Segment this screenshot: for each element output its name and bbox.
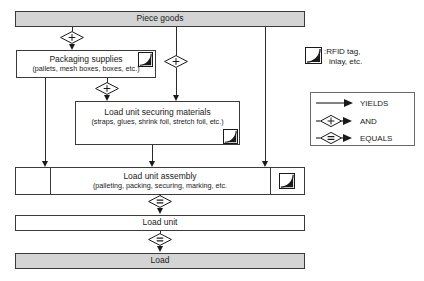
node-securing-materials: Load unit securing materials (straps, gl… (75, 101, 240, 145)
legend-row-yields: YIELDS (315, 96, 388, 110)
connector-line (176, 27, 177, 56)
node-securing-materials-detail: (straps, glues, shrink foil, stretch foi… (91, 118, 223, 126)
connector-line (45, 78, 46, 162)
legend-rfid-key: :RFID tag, inlay, etc. (305, 47, 362, 67)
node-load-label: Load (151, 256, 170, 266)
rfid-tag-icon (138, 52, 153, 67)
arrowhead-icon (104, 95, 110, 101)
arrowhead-icon (42, 161, 48, 167)
connector-line (152, 145, 153, 162)
legend-row-equals: EQUALS (315, 131, 392, 145)
rfid-tag-icon (305, 47, 322, 64)
assembly-divider-left (50, 167, 51, 195)
legend-rfid-line1: :RFID tag, (324, 47, 362, 57)
equals-connector-diamond (148, 195, 172, 208)
equals-connector-diamond (148, 233, 172, 246)
yields-arrow-icon (315, 96, 355, 110)
node-load-unit-assembly: Load unit assembly (palleting, packing, … (15, 167, 305, 195)
legend-row-and: AND (315, 114, 377, 128)
arrowhead-icon (69, 44, 75, 50)
node-packaging-supplies-detail: (pallets, mesh boxes, boxes, etc.) (32, 65, 139, 73)
equals-diamond-arrow-icon (315, 131, 355, 145)
rfid-tag-icon (279, 173, 295, 189)
arrowhead-icon (149, 161, 155, 167)
arrowhead-icon (173, 95, 179, 101)
node-load-unit-label: Load unit (143, 218, 178, 228)
node-piece-goods: Piece goods (15, 11, 305, 27)
node-piece-goods-label: Piece goods (137, 14, 184, 24)
and-diamond-arrow-icon (315, 114, 355, 128)
diagram-canvas: Piece goods Packaging supplies (pallets,… (0, 0, 424, 281)
arrowhead-icon (262, 161, 268, 167)
node-load-unit-assembly-detail: (palleting, packing, securing, marking, … (93, 182, 227, 190)
rfid-tag-icon (223, 129, 238, 144)
and-connector-diamond (164, 55, 188, 68)
legend-label-and: AND (360, 117, 377, 126)
and-connector-diamond (95, 82, 119, 95)
arrowhead-icon (157, 208, 163, 214)
node-packaging-supplies: Packaging supplies (pallets, mesh boxes,… (16, 50, 156, 78)
legend-rfid-line2: inlay, etc. (329, 57, 362, 67)
assembly-divider-right (270, 167, 271, 195)
node-load-unit: Load unit (15, 215, 305, 231)
arrowhead-icon (157, 246, 163, 252)
node-load: Load (15, 253, 305, 269)
legend-label-yields: YIELDS (360, 99, 388, 108)
legend-label-equals: EQUALS (360, 134, 392, 143)
connector-line (176, 68, 177, 96)
and-connector-diamond (60, 31, 84, 44)
connector-line (265, 27, 266, 162)
